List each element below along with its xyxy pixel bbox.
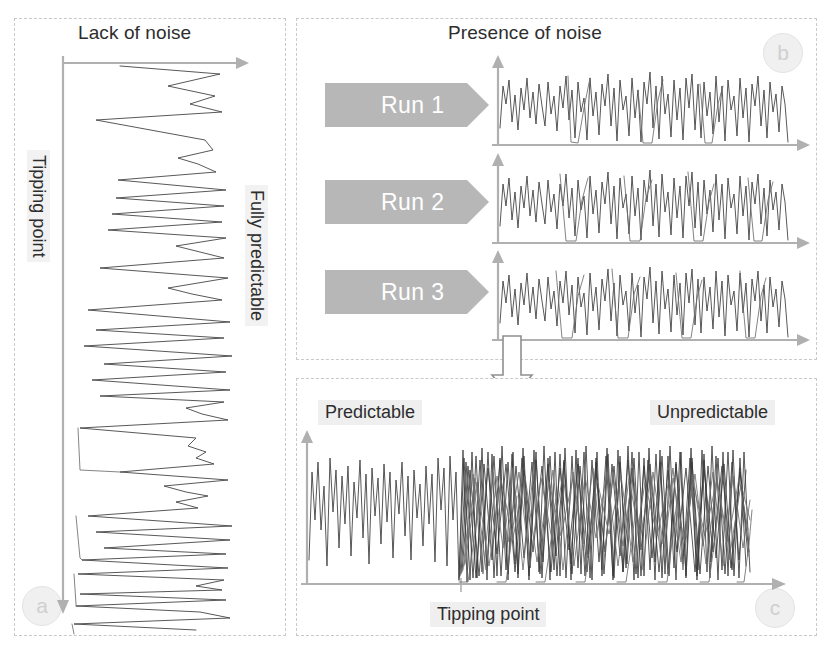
- panel-c-chart: [0, 0, 831, 652]
- panel-c-unpredictable-ensemble: [459, 446, 752, 582]
- panel-c-predictable-segment: [309, 456, 459, 580]
- panel-c-x-axis-arrowhead: [772, 578, 786, 590]
- panel-c-y-axis-arrowhead: [301, 430, 313, 443]
